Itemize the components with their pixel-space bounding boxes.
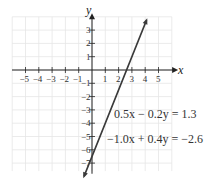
y-tick-label: 3 (86, 25, 91, 35)
coordinate-plane: −5−4−3−2−112345321−1−2−3−4−5−6−7 x y (0, 0, 216, 180)
x-tick-label: −4 (33, 74, 43, 84)
x-tick-label: 5 (156, 74, 161, 84)
y-tick-label: −6 (81, 145, 91, 155)
equation-line (83, 18, 147, 178)
y-tick-label: 1 (86, 52, 91, 62)
x-tick-label: 2 (116, 74, 121, 84)
x-tick-label: 3 (129, 74, 134, 84)
y-axis-label: y (85, 3, 92, 17)
y-tick-label: −1 (81, 78, 91, 88)
x-axis-label: x (177, 63, 184, 77)
equation-label-2: −1.0x + 0.4y = −2.6 (107, 132, 203, 147)
y-tick-label: −4 (81, 118, 91, 128)
y-tick-label: −3 (81, 105, 91, 115)
equation-label-1: 0.5x − 0.2y = 1.3 (114, 107, 197, 122)
y-tick-label: −2 (81, 92, 91, 102)
x-tick-label: −3 (46, 74, 56, 84)
y-tick-label: −5 (81, 132, 91, 142)
x-tick-label: 4 (143, 74, 148, 84)
y-tick-label: 2 (86, 38, 91, 48)
x-tick-label: −2 (59, 74, 69, 84)
x-tick-label: −5 (20, 74, 30, 84)
x-tick-label: 1 (103, 74, 108, 84)
